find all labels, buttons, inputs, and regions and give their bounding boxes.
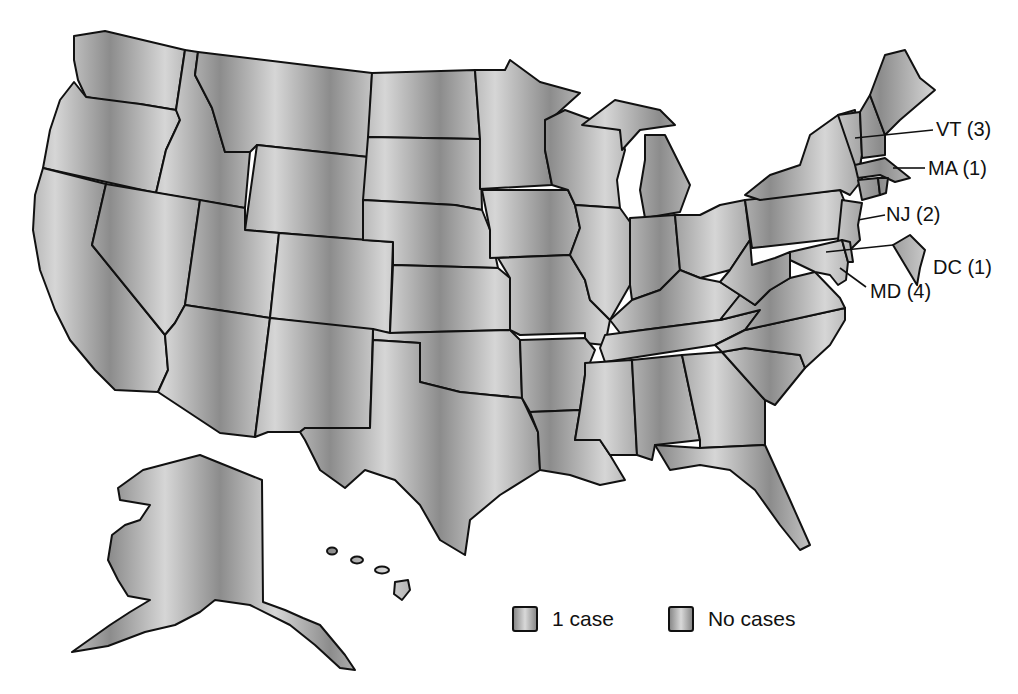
legend-item-one-case: 1 case — [512, 606, 614, 632]
state-ak — [72, 455, 355, 670]
state-hi-3 — [375, 567, 389, 574]
legend-swatch-no-cases — [668, 606, 694, 632]
state-hi-2 — [351, 557, 363, 564]
legend-label-no-cases: No cases — [708, 607, 796, 631]
state-ri — [878, 178, 888, 195]
us-map — [0, 0, 1018, 694]
callout-vt: VT (3) — [936, 118, 991, 141]
state-ms — [575, 360, 637, 455]
callout-ma: MA (1) — [928, 157, 987, 180]
callout-dc: DC (1) — [933, 256, 992, 279]
state-dc-inset — [893, 235, 925, 285]
state-ia — [482, 190, 580, 258]
callout-md: MD (4) — [870, 280, 931, 303]
state-mt — [195, 52, 372, 157]
state-ks — [390, 265, 510, 333]
callout-nj: NJ (2) — [886, 203, 940, 226]
legend: 1 case No cases — [512, 606, 795, 632]
state-nm — [255, 318, 373, 437]
state-fl — [655, 445, 810, 550]
leader-nj — [858, 215, 885, 220]
state-sd — [363, 137, 482, 210]
state-nd — [368, 70, 480, 139]
legend-item-no-cases: No cases — [668, 606, 796, 632]
state-hi-4 — [394, 580, 410, 600]
state-mi — [640, 135, 690, 218]
state-ct — [858, 178, 880, 200]
state-me — [870, 50, 935, 135]
state-az — [158, 305, 270, 437]
legend-swatch-one-case — [512, 606, 538, 632]
state-hi-1 — [327, 548, 337, 555]
state-wy — [245, 145, 368, 240]
legend-label-one-case: 1 case — [552, 607, 614, 631]
state-co — [270, 233, 393, 333]
